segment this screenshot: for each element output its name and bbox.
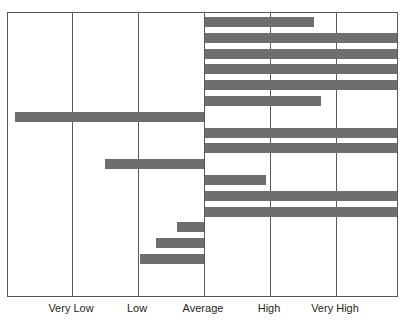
bar-4 <box>204 64 398 74</box>
bar-16 <box>140 254 204 264</box>
bar-5 <box>204 80 398 90</box>
bar-12 <box>204 191 398 201</box>
bar-9 <box>204 143 398 153</box>
bar-3 <box>204 49 398 59</box>
bar-11 <box>204 175 266 185</box>
gridline-1 <box>72 13 73 296</box>
x-tick-label-very-high: Very High <box>285 301 385 315</box>
bar-6 <box>204 96 321 106</box>
bar-13 <box>204 207 398 217</box>
x-axis-labels: Very LowLowAverageHighVery High <box>7 301 398 321</box>
baseline-zero-line <box>204 13 205 296</box>
bar-15 <box>156 238 204 248</box>
bar-14 <box>177 222 204 232</box>
bar-2 <box>204 33 398 43</box>
bar-7 <box>15 112 204 122</box>
plot-area <box>7 12 398 297</box>
bar-1 <box>204 17 314 27</box>
bar-10 <box>105 159 204 169</box>
gridline-2 <box>138 13 139 296</box>
chart-title <box>0 0 405 1</box>
bar-8 <box>204 128 398 138</box>
chart-root: Very LowLowAverageHighVery High <box>0 0 405 325</box>
